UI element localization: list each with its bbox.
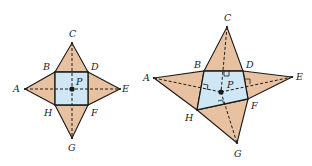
vertex-dot-e [291, 76, 293, 78]
label-g: G [68, 142, 76, 153]
label-e: E [295, 71, 303, 82]
label-e: E [121, 83, 129, 94]
label-c: C [69, 28, 77, 39]
label-h: H [184, 112, 194, 123]
label-b: B [193, 59, 201, 70]
triangle-hab [154, 71, 204, 110]
label-p: P [75, 76, 83, 87]
label-a: A [12, 83, 20, 94]
label-p: P [226, 79, 234, 90]
triangle-def [243, 71, 292, 99]
vertex-dot-a [24, 88, 26, 90]
vertex-dot-c [71, 42, 73, 44]
vertex-dot-g [236, 142, 238, 144]
label-h: H [43, 107, 53, 118]
vertex-dot-a [153, 77, 155, 79]
label-f: F [250, 100, 258, 111]
vertex-dot-e [119, 88, 121, 90]
label-b: B [42, 61, 50, 72]
diagram-canvas: C B D P A E H F G C B D P A E H [0, 0, 312, 166]
vertex-dot-g [71, 137, 73, 139]
label-d: D [90, 61, 99, 72]
label-f: F [90, 107, 98, 118]
center-point-p [218, 89, 223, 94]
vertex-dot-c [226, 26, 228, 28]
center-point-p [69, 86, 74, 91]
label-a: A [142, 72, 150, 83]
triangle-bcd [55, 43, 88, 72]
label-d: D [245, 59, 254, 70]
label-g: G [234, 148, 242, 159]
figure-2-net: C B D P A E H F G [142, 12, 303, 159]
label-c: C [224, 12, 232, 23]
figure-1-net: C B D P A E H F G [12, 28, 129, 153]
